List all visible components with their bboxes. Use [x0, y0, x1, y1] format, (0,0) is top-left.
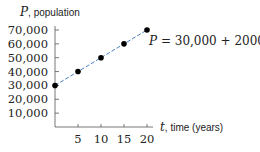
chart: P, population 10,00020,00030,00040,00050… — [0, 0, 260, 152]
y-tick-label: 70,000 — [8, 23, 48, 37]
y-axis-label: P, population — [19, 5, 80, 19]
data-point — [75, 69, 81, 75]
y-tick-label: 30,000 — [8, 78, 48, 92]
x-axis-label: t, time (years) — [160, 120, 223, 134]
y-ticks: 10,00020,00030,00040,00050,00060,00070,0… — [8, 23, 59, 120]
x-tick-label: 10 — [94, 132, 109, 146]
data-point — [98, 55, 104, 61]
y-tick-label: 20,000 — [8, 92, 48, 106]
y-tick-label: 60,000 — [8, 37, 48, 51]
y-tick-label: 40,000 — [8, 65, 48, 79]
y-tick-label: 10,000 — [8, 106, 48, 120]
data-point — [144, 27, 150, 33]
data-points — [52, 27, 150, 88]
x-tick-label: 5 — [74, 132, 81, 146]
y-tick-label: 50,000 — [8, 51, 48, 65]
equation-annotation: P = 30,000 + 2000t — [148, 34, 260, 48]
x-tick-label: 20 — [140, 132, 155, 146]
data-point — [52, 83, 58, 89]
data-point — [121, 41, 127, 47]
x-tick-label: 15 — [117, 132, 132, 146]
